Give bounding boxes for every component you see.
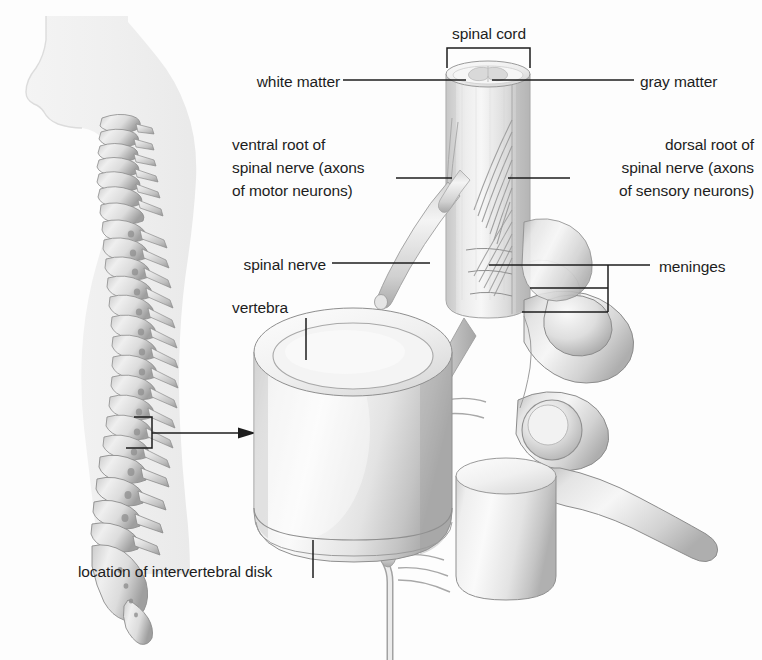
transverse-process xyxy=(539,468,718,562)
label-spinal-nerve: spinal nerve xyxy=(150,253,326,276)
label-gray-matter: gray matter xyxy=(640,70,717,93)
label-ventral-root-line1: ventral root of xyxy=(232,133,325,156)
label-ventral-root-line2: spinal nerve (axons xyxy=(232,156,365,179)
label-dorsal-root-line1: dorsal root of xyxy=(506,133,754,156)
callout-arrow-head xyxy=(238,428,256,439)
label-dorsal-root-line3: of sensory neurons) xyxy=(506,179,754,202)
nerve-cut-end-upper xyxy=(375,295,388,310)
vertebral-body-group xyxy=(230,308,456,580)
label-ventral-root-line3: of motor neurons) xyxy=(232,179,353,202)
anatomy-figure: spinal cord white matter gray matter ven… xyxy=(0,0,762,660)
lower-vertebral-body xyxy=(456,476,556,600)
label-meninges: meninges xyxy=(659,255,725,278)
label-white-matter: white matter xyxy=(160,70,340,93)
label-vertebra: vertebra xyxy=(232,296,288,319)
label-spinal-cord: spinal cord xyxy=(429,22,549,45)
label-dorsal-root-line2: spinal nerve (axons xyxy=(506,156,754,179)
label-intervertebral-disk: location of intervertebral disk xyxy=(78,560,272,583)
